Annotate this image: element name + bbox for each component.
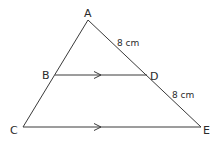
label-D: D <box>150 70 158 83</box>
measure-AD: 8 cm <box>117 38 139 48</box>
segment-AC <box>23 20 88 127</box>
measure-DE: 8 cm <box>172 90 194 100</box>
triangle-diagram: A B D C E 8 cm 8 cm <box>0 0 220 144</box>
label-C: C <box>10 124 18 137</box>
label-E: E <box>203 124 210 137</box>
label-A: A <box>84 7 92 20</box>
label-B: B <box>42 69 50 82</box>
segment-AE <box>88 20 201 127</box>
